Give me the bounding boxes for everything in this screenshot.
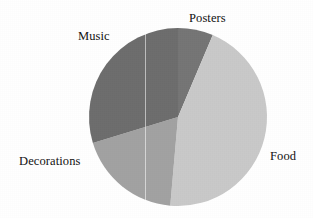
pie-label-music: Music [78, 29, 110, 43]
pie-label-decorations: Decorations [19, 154, 81, 168]
pie-label-food: Food [270, 149, 296, 163]
pie-chart: Music Posters Decorations Food [0, 0, 313, 218]
pie-chart-canvas [0, 0, 313, 218]
pie-label-posters: Posters [189, 11, 226, 25]
